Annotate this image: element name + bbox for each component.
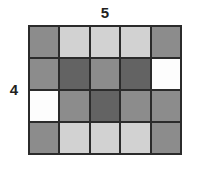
array-grid-figure: 5 4 — [0, 0, 199, 184]
grid-cell-r2-c4 — [121, 59, 149, 89]
grid-cell-r3-c4 — [121, 91, 149, 121]
grid-cell-r2-c1 — [30, 59, 58, 89]
grid-cell-r3-c3 — [91, 91, 119, 121]
grid-cell-r4-c1 — [30, 123, 58, 153]
grid-cell-r3-c2 — [60, 91, 88, 121]
grid-cell-r2-c5 — [152, 59, 180, 89]
grid — [28, 25, 182, 155]
grid-cell-r3-c5 — [152, 91, 180, 121]
row-count-label: 4 — [2, 25, 26, 155]
grid-cell-r4-c4 — [121, 123, 149, 153]
grid-cell-r1-c3 — [91, 27, 119, 57]
grid-cell-r4-c3 — [91, 123, 119, 153]
grid-cell-r4-c5 — [152, 123, 180, 153]
grid-cell-r2-c2 — [60, 59, 88, 89]
grid-cell-r3-c1 — [30, 91, 58, 121]
grid-cell-r4-c2 — [60, 123, 88, 153]
grid-cell-r1-c2 — [60, 27, 88, 57]
grid-cell-r2-c3 — [91, 59, 119, 89]
grid-cell-r1-c4 — [121, 27, 149, 57]
grid-cell-r1-c5 — [152, 27, 180, 57]
column-count-label: 5 — [28, 2, 182, 24]
grid-cell-r1-c1 — [30, 27, 58, 57]
